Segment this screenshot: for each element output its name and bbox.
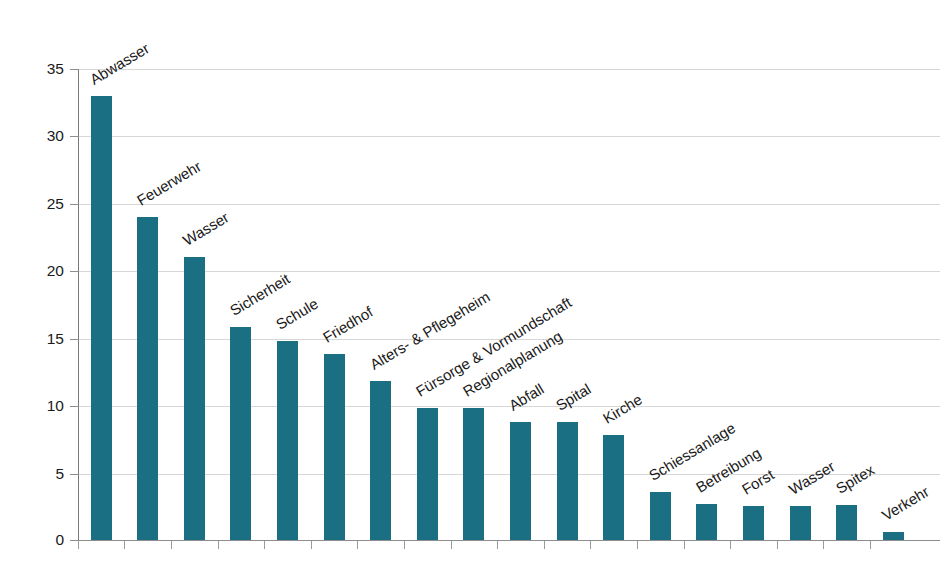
y-axis-label-30: 30 <box>18 128 64 144</box>
x-tick <box>544 541 545 549</box>
x-tick <box>684 541 685 549</box>
x-axis-line <box>78 540 940 541</box>
x-tick <box>218 541 219 549</box>
bar <box>324 354 345 540</box>
x-tick <box>264 541 265 549</box>
y-axis-label-0: 0 <box>18 532 64 548</box>
bar <box>603 435 624 540</box>
y-axis-labels: 35 30 25 20 15 10 5 0 <box>12 0 64 581</box>
x-tick <box>451 541 452 549</box>
bar <box>277 341 298 540</box>
x-tick <box>777 541 778 549</box>
x-tick <box>730 541 731 549</box>
x-tick <box>78 541 79 549</box>
y-axis-label-25: 25 <box>18 196 64 212</box>
x-tick <box>870 541 871 549</box>
bar <box>91 96 112 540</box>
x-tick <box>357 541 358 549</box>
bar <box>230 327 251 540</box>
bar <box>417 408 438 540</box>
y-axis-label-20: 20 <box>18 263 64 279</box>
bar <box>696 504 717 540</box>
x-tick <box>124 541 125 549</box>
x-tick <box>590 541 591 549</box>
bar <box>836 505 857 540</box>
bar <box>743 506 764 540</box>
y-axis-label-35: 35 <box>18 61 64 77</box>
bar <box>184 257 205 540</box>
bar <box>650 492 671 540</box>
bar <box>370 381 391 540</box>
bar <box>790 506 811 540</box>
x-tick <box>311 541 312 549</box>
x-tick <box>497 541 498 549</box>
bar <box>557 422 578 540</box>
y-axis-label-5: 5 <box>18 466 64 482</box>
y-axis-label-10: 10 <box>18 398 64 414</box>
y-axis-label-15: 15 <box>18 331 64 347</box>
bar <box>463 408 484 540</box>
x-tick <box>823 541 824 549</box>
x-tick <box>171 541 172 549</box>
bar <box>883 532 904 540</box>
bar-chart: 35 30 25 20 15 10 5 0 AbwasserFeuerwehrW… <box>0 0 952 581</box>
x-tick <box>637 541 638 549</box>
bar <box>510 422 531 540</box>
x-tick <box>404 541 405 549</box>
bar <box>137 217 158 540</box>
